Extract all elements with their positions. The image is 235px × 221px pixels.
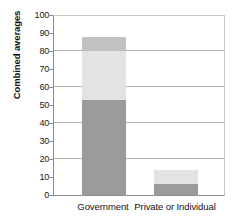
y-axis-tick-label: 30 [23,137,49,146]
gridline [54,158,224,159]
y-axis-tick-label: 10 [23,173,49,182]
bar-stack [82,37,126,195]
plot-area [53,15,225,196]
y-axis-title: Combined averages [10,0,24,125]
y-axis-tick-label: 60 [23,83,49,92]
y-axis-tick-label: 100 [23,11,49,20]
x-axis-tick-label: Private or Individual [115,201,235,212]
y-axis-tick-label: 40 [23,119,49,128]
gridline [54,122,224,123]
y-axis-tick-label: 80 [23,47,49,56]
y-axis-tick-label: 20 [23,155,49,164]
bar-chart: Combined averages 0102030405060708090100… [0,0,235,221]
gridline [54,86,224,87]
y-axis-tick-label: 0 [23,191,49,200]
bar-segment [82,37,126,51]
y-axis-tick-label: 50 [23,101,49,110]
bar-segment [154,170,198,184]
y-axis-tick-label: 90 [23,29,49,38]
bar-stack [154,170,198,195]
bar-segment [154,184,198,195]
gridline [54,50,224,51]
y-axis-tick-label: 70 [23,65,49,74]
bar-segment [82,51,126,100]
bar-segment [82,100,126,195]
